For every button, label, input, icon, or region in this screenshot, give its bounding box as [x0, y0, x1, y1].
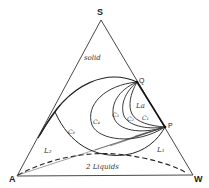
edge-s-a	[17, 20, 101, 176]
edge-a-w	[17, 175, 193, 176]
vertex-label-s: S	[97, 7, 103, 17]
curve-label-c4: C₄	[93, 118, 101, 125]
vertex-label-w: W	[194, 174, 203, 184]
region-label-l1: L₁	[156, 146, 165, 154]
point-label-q: Q	[139, 77, 145, 85]
region-label-solid: solid	[84, 54, 101, 62]
point-label-p: P	[168, 122, 173, 129]
ternary-diagram: S A W Q P solid La L₂ L₁ 2 Liquids C₈ C₄…	[0, 0, 209, 188]
curve-label-c1: C₁	[142, 114, 149, 121]
curve-label-c3: C₃	[112, 111, 120, 118]
region-label-la: La	[135, 102, 145, 110]
point-q-marker	[136, 81, 139, 84]
curve-label-c2: C₂	[127, 115, 135, 122]
vertex-label-a: A	[9, 174, 16, 184]
region-label-l2: L₂	[43, 147, 52, 155]
region-label-two-liquids: 2 Liquids	[85, 163, 119, 171]
curve-upper-left	[38, 105, 60, 138]
point-p-marker	[164, 126, 167, 129]
curve-label-c8: C₈	[68, 128, 76, 135]
